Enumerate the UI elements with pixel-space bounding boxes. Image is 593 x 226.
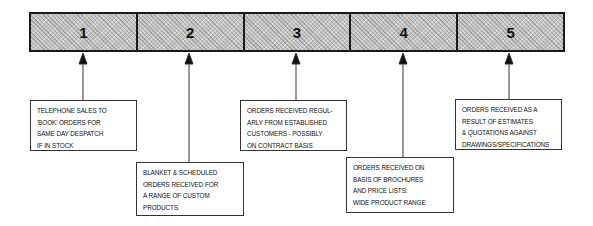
stage-description-2: BLANKET & SCHEDULED ORDERS RECEIVED FOR … bbox=[136, 162, 244, 216]
description-line: ON CONTRACT BASIS bbox=[247, 140, 340, 152]
description-line: TELEPHONE SALES TO bbox=[37, 105, 130, 117]
description-line: CUSTOMERS - POSSIBLY bbox=[247, 128, 340, 140]
arrowhead-icon-5 bbox=[505, 53, 513, 64]
description-line: AND PRICE LISTS: bbox=[353, 185, 447, 197]
description-line: PRODUCTS bbox=[143, 202, 237, 214]
description-line: A RANGE OF CUSTOM bbox=[143, 190, 237, 202]
description-line: IF IN STOCK bbox=[37, 140, 130, 152]
description-line: ORDERS RECEIVED AS A bbox=[462, 104, 555, 116]
description-line: & QUOTATIONS AGAINST bbox=[462, 127, 555, 139]
stage-description-3: ORDERS RECEIVED REGUL- ARLY FROM ESTABLI… bbox=[240, 100, 347, 151]
description-line: WIDE PRODUCT RANGE bbox=[353, 197, 447, 209]
description-line: ORDERS RECEIVED FOR bbox=[143, 179, 237, 191]
description-line: ORDERS RECEIVED REGUL- bbox=[247, 105, 340, 117]
description-line: ORDERS RECEIVED ON bbox=[353, 162, 447, 174]
description-line: BLANKET & SCHEDULED bbox=[143, 167, 237, 179]
arrowhead-icon-2 bbox=[185, 53, 193, 64]
description-line: RESULT OF ESTIMATES bbox=[462, 116, 555, 128]
description-line: BASIS OF BROCHURES bbox=[353, 174, 447, 186]
description-line: DRAWINGS/SPECIFICATIONS bbox=[462, 139, 555, 151]
arrowhead-icon-1 bbox=[79, 53, 87, 64]
description-line: SAME DAY DESPATCH bbox=[37, 128, 130, 140]
stage-description-4: ORDERS RECEIVED ON BASIS OF BROCHURES AN… bbox=[346, 157, 454, 213]
arrowhead-icon-3 bbox=[292, 53, 300, 64]
description-line: ARLY FROM ESTABLISHED bbox=[247, 117, 340, 129]
stage-description-1: TELEPHONE SALES TO 'BOOK' ORDERS FOR SAM… bbox=[30, 100, 137, 151]
arrowhead-icon-4 bbox=[399, 53, 407, 64]
description-line: 'BOOK' ORDERS FOR bbox=[37, 117, 130, 129]
stage-description-5: ORDERS RECEIVED AS A RESULT OF ESTIMATES… bbox=[455, 99, 562, 150]
